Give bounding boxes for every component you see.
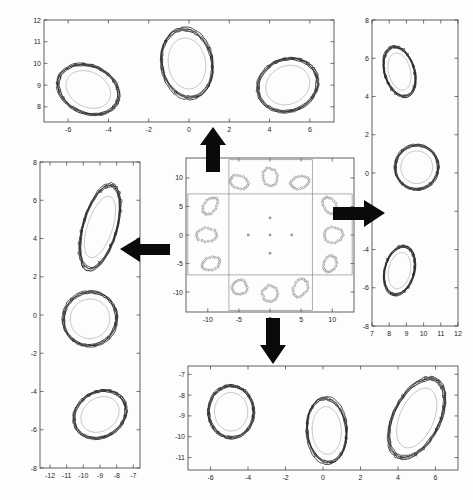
arrow-layer <box>0 0 473 500</box>
arrow-down <box>260 318 286 364</box>
arrow-right <box>333 200 385 227</box>
figure-root: -6-4-2024689101112 -12-11-10-9-8-7-8-6-4… <box>0 0 473 500</box>
arrow-up <box>200 127 226 172</box>
arrow-left <box>120 237 170 262</box>
